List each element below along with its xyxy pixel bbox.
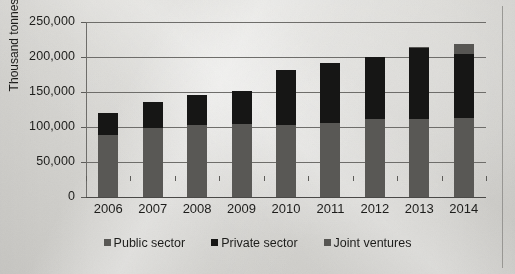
bar-segment[interactable] <box>409 47 429 48</box>
bar-segment[interactable] <box>98 113 118 135</box>
bar-segment[interactable] <box>276 125 296 197</box>
y-tick <box>81 197 86 198</box>
x-tick <box>130 176 131 181</box>
x-tick <box>397 176 398 181</box>
chart-legend: Public sectorPrivate sectorJoint venture… <box>0 236 515 250</box>
x-tick-label: 2010 <box>264 201 308 216</box>
x-tick-label: 2012 <box>353 201 397 216</box>
bar-segment[interactable] <box>187 125 207 197</box>
public-swatch <box>104 239 111 246</box>
y-tick-label: 0 <box>0 189 75 203</box>
x-tick <box>486 176 487 181</box>
bar-group[interactable] <box>232 22 252 197</box>
y-tick-label: 100,000 <box>0 119 75 133</box>
private-swatch <box>211 239 218 246</box>
x-tick-label: 2011 <box>308 201 352 216</box>
y-tick <box>81 127 86 128</box>
y-tick-label: 50,000 <box>0 154 75 168</box>
x-tick-label: 2014 <box>442 201 486 216</box>
y-tick-label: 250,000 <box>0 14 75 28</box>
x-tick-label: 2007 <box>130 201 174 216</box>
legend-label: Public sector <box>114 236 186 250</box>
bar-segment[interactable] <box>143 128 163 197</box>
page-margin-rule <box>502 6 503 268</box>
y-tick <box>81 92 86 93</box>
bar-segment[interactable] <box>454 54 474 118</box>
bar-segment[interactable] <box>365 57 385 119</box>
bar-segment[interactable] <box>454 44 474 53</box>
x-tick <box>308 176 309 181</box>
bar-segment[interactable] <box>409 48 429 119</box>
x-tick-label: 2013 <box>397 201 441 216</box>
bars-layer <box>86 22 486 197</box>
legend-label: Private sector <box>221 236 297 250</box>
bar-segment[interactable] <box>187 95 207 125</box>
bar-group[interactable] <box>365 22 385 197</box>
x-tick-label: 2008 <box>175 201 219 216</box>
y-tick <box>81 22 86 23</box>
bar-segment[interactable] <box>454 118 474 197</box>
bar-segment[interactable] <box>276 70 296 125</box>
gridline <box>86 197 486 198</box>
bar-segment[interactable] <box>98 135 118 197</box>
legend-item[interactable]: Public sector <box>104 236 186 250</box>
y-tick-label: 200,000 <box>0 49 75 63</box>
x-tick <box>442 176 443 181</box>
bar-segment[interactable] <box>409 119 429 197</box>
legend-item[interactable]: Joint ventures <box>324 236 412 250</box>
x-tick <box>86 176 87 181</box>
bar-group[interactable] <box>409 22 429 197</box>
x-tick <box>264 176 265 181</box>
plot-area <box>86 22 486 197</box>
bar-segment[interactable] <box>232 91 252 124</box>
x-tick <box>353 176 354 181</box>
bar-group[interactable] <box>454 22 474 197</box>
legend-label: Joint ventures <box>334 236 412 250</box>
bar-segment[interactable] <box>232 124 252 197</box>
bar-segment[interactable] <box>365 119 385 197</box>
bar-group[interactable] <box>98 22 118 197</box>
y-tick <box>81 162 86 163</box>
x-tick-label: 2009 <box>219 201 263 216</box>
chart-screenshot: Thousand tonnes 250,000200,000150,000100… <box>0 0 515 274</box>
joint-swatch <box>324 239 331 246</box>
bar-segment[interactable] <box>320 63 340 123</box>
bar-group[interactable] <box>320 22 340 197</box>
bar-group[interactable] <box>143 22 163 197</box>
x-tick-label: 2006 <box>86 201 130 216</box>
bar-group[interactable] <box>187 22 207 197</box>
bar-segment[interactable] <box>320 123 340 197</box>
y-tick <box>81 57 86 58</box>
bar-segment[interactable] <box>143 102 163 128</box>
x-tick <box>175 176 176 181</box>
bar-group[interactable] <box>276 22 296 197</box>
legend-item[interactable]: Private sector <box>211 236 297 250</box>
x-tick <box>219 176 220 181</box>
y-tick-label: 150,000 <box>0 84 75 98</box>
